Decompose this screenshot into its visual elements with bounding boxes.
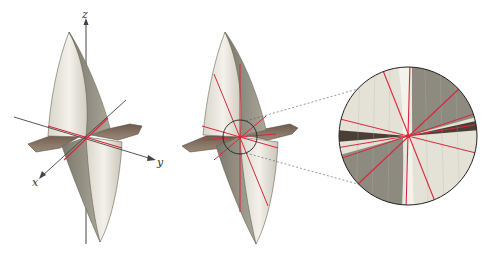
surface-lower-sheet: [86, 137, 122, 242]
x-axis-label: x: [32, 176, 39, 189]
z-axis-label: z: [81, 8, 88, 21]
surface-upper-sheet: [48, 32, 91, 137]
surface-diagram: z y x: [0, 0, 492, 258]
magnified-view: [336, 60, 480, 210]
y-axis-arrow-icon: [147, 155, 156, 161]
left-surface-plot: z y x: [14, 8, 164, 244]
surface-upper-sheet: [203, 32, 244, 137]
red-center-point: [406, 134, 410, 138]
red-center-point: [238, 135, 242, 139]
x-axis-arrow-icon: [39, 171, 46, 179]
y-axis-label: y: [156, 156, 164, 169]
